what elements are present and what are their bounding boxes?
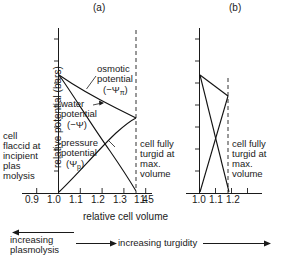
panel-a-xtick-4: 1.3 <box>113 195 127 205</box>
panel-a-xtick-2: 1.1 <box>69 195 83 205</box>
hofler-diagram-figure: (a) (b) relative potential (bars) relati… <box>0 0 281 261</box>
panel-a-label: (a) <box>93 3 105 13</box>
osmotic-symbol-main: (−Ψ <box>103 84 120 95</box>
osmotic-potential-label: osmotic potential <box>97 64 133 84</box>
osmotic-symbol-subscript: π <box>120 89 125 96</box>
panel-b-label: (b) <box>229 3 241 13</box>
cell-flaccid-note: cell flaccid at incipient plas molysis <box>3 131 41 180</box>
panel-a-xtick-3: 1.2 <box>91 195 105 205</box>
panel-a-xtick-1: 1.0 <box>47 195 61 205</box>
pressure-symbol-subscript: p <box>77 163 81 170</box>
panel-b-xtick-2: 1.2 <box>226 195 240 205</box>
panel-b-pressure-potential-line <box>200 96 228 192</box>
panel-a-xtick-0: 0.9 <box>25 195 39 205</box>
water-potential-label: water potential <box>61 99 97 119</box>
increasing-turgidity-label: increasing turgidity <box>118 238 197 248</box>
panel-a-cell-turgid-note: cell fully turgid at max. volume <box>140 139 174 179</box>
panel-a-pressure-leader-line <box>108 140 115 147</box>
panel-b-xtick-0: 1.0 <box>192 195 206 205</box>
pressure-potential-label: pressure potential <box>61 138 98 158</box>
turgidity-arrow-head-right <box>264 241 271 247</box>
turgidity-arrow-head-left <box>110 241 117 247</box>
panel-a-osmotic-leader-line <box>87 76 97 89</box>
increasing-plasmolysis-label: increasing plasmolysis <box>10 235 59 255</box>
panel-b-xtick-1: 1.1 <box>209 195 223 205</box>
osmotic-potential-symbol: (−Ψπ) <box>103 85 128 95</box>
x-axis-label: relative cell volume <box>83 212 168 222</box>
pressure-symbol-close: ) <box>81 158 84 169</box>
water-potential-symbol: (−Ψ) <box>67 120 87 130</box>
panel-b-water-potential-line <box>200 75 229 192</box>
panel-b-cell-turgid-note: cell fully turgid at max. volume <box>232 139 266 179</box>
pressure-symbol-main: (Ψ <box>66 158 77 169</box>
panel-a-xtick-6: 1.5 <box>140 195 154 205</box>
pressure-potential-symbol: (Ψp) <box>66 159 84 169</box>
